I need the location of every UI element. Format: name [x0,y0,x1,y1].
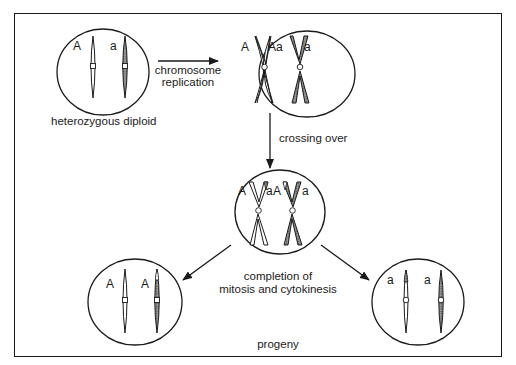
allele-label: A [238,184,246,198]
completion-label-line2: mitosis and cytokinesis [219,283,337,295]
cell-diploid: A a [57,29,149,115]
arrow-down-right-icon [321,245,369,280]
cell-crossover: A a A a [235,170,325,254]
cell-progeny-left: A A [88,259,182,345]
chromosome-A-shaded [155,269,160,333]
allele-label: a [304,40,311,54]
crossover-chromosome-right [283,182,302,245]
progeny-label: progeny [257,338,299,350]
crossing-over-label: crossing over [279,132,348,144]
allele-label: A [73,39,81,53]
chromosome-a-shaded [438,270,444,333]
chromosome-A [91,36,96,98]
allele-label: A [106,277,114,291]
allele-label: A [141,277,149,291]
allele-label: A [241,40,249,54]
allele-label: a [387,273,394,287]
replication-label-line2: replication [162,76,214,88]
allele-label: a [266,184,273,198]
arrow-down-left-icon [183,245,231,280]
allele-label: a [302,184,309,198]
allele-label: Aa [268,40,283,54]
allele-label: A [273,184,281,198]
chromosome-a [123,36,128,98]
allele-label: a [424,273,431,287]
chromosome-a-light [403,270,409,333]
allele-label: a [110,39,117,53]
diploid-caption: heterozygous diploid [51,115,157,127]
chromosome-A-light [123,269,128,333]
cell-replicated: A Aa a [241,31,355,117]
cell-progeny-right: a a [372,259,464,345]
replication-label-line1: chromosome [155,64,221,76]
completion-label-line1: completion of [244,270,313,282]
mitotic-crossover-diagram: A a heterozygous diploid chromosome repl… [0,0,516,365]
